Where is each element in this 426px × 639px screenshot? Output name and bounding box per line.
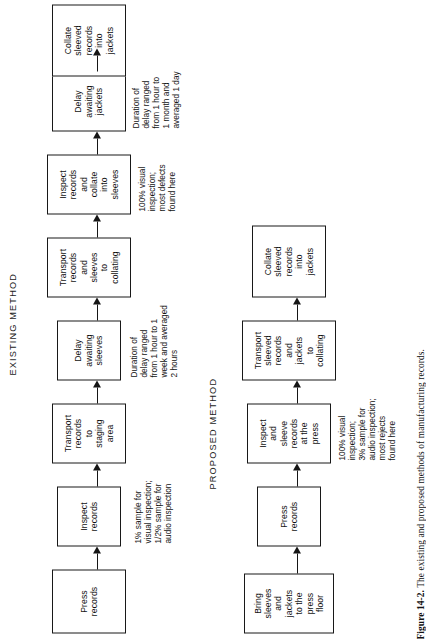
node-line: collate xyxy=(89,171,99,197)
connector-arrow xyxy=(97,553,98,569)
node-line: Collate xyxy=(263,247,273,274)
node-line: into xyxy=(294,254,304,268)
note-inspection: 100% visual inspection; most defects fou… xyxy=(138,164,178,211)
figure-number: Figure 14-2. xyxy=(416,590,426,639)
node-transport-to-collating: Transport sleeved records and jackets to… xyxy=(242,320,336,380)
node-line: and xyxy=(268,426,278,441)
figure-caption: Figure 14-2. The existing and proposed m… xyxy=(416,0,426,639)
node-line: into xyxy=(94,33,104,47)
note-inspection: 100% visual inspection; 3% sample for au… xyxy=(338,398,397,460)
node-line: to xyxy=(305,346,315,353)
node-line: jackets xyxy=(284,589,294,616)
node-line: Inspect xyxy=(258,419,268,447)
node-line: staging xyxy=(94,419,104,447)
connector-arrow xyxy=(97,387,98,403)
arrowhead-icon xyxy=(293,463,301,470)
node-press-records: Press records xyxy=(257,486,321,546)
proposed-method-track: Bring sleeves and jackets to the press f… xyxy=(222,0,372,639)
node-line: to xyxy=(84,429,94,436)
node-line: into xyxy=(99,177,109,191)
node-line: jackets xyxy=(105,26,115,53)
node-line: Bring xyxy=(253,593,263,614)
connector-arrow xyxy=(297,304,298,320)
node-line: jackets xyxy=(305,247,315,274)
node-line: sleeve xyxy=(279,420,289,445)
existing-method-track: Press records Inspect records Transport … xyxy=(22,0,172,639)
node-line: and xyxy=(79,177,89,192)
note-delay-jackets: Duration of delay ranged from 1 hour to … xyxy=(132,71,182,128)
node-line: to xyxy=(99,263,109,270)
node-line: sleeves xyxy=(89,252,99,282)
node-line: press xyxy=(305,592,315,614)
node-line: awaiting xyxy=(84,85,94,117)
node-collate-into-jackets: Collate sleeved records into jackets xyxy=(52,4,126,76)
node-inspect-records: Inspect records xyxy=(57,486,121,546)
note-sampling: 1% sample for visual inspection; 1/2% sa… xyxy=(134,480,174,543)
node-line: records xyxy=(289,501,299,530)
proposed-method-row: PROPOSED METHOD Bring sleeves and jacket… xyxy=(206,0,376,639)
node-transport-to-staging: Transport records to staging area xyxy=(52,403,126,463)
arrowhead-icon xyxy=(293,380,301,387)
node-line: Inspect xyxy=(58,170,68,198)
note-line: found here xyxy=(388,398,398,460)
node-line: Collate xyxy=(63,26,73,53)
connector-arrow xyxy=(297,553,298,573)
node-inspect-and-sleeve: Inspect and sleeve records at the press xyxy=(247,403,331,463)
arrowhead-icon xyxy=(93,48,101,55)
note-line: audio inspection xyxy=(164,480,174,543)
connector-arrow xyxy=(297,387,298,403)
node-line: Transport xyxy=(253,331,263,368)
node-line: Press xyxy=(279,505,289,527)
proposed-method-label: PROPOSED METHOD xyxy=(208,377,218,489)
node-line: records xyxy=(89,501,99,530)
node-line: Press xyxy=(79,590,89,612)
node-line: to the xyxy=(294,592,304,614)
existing-method-label: EXISTING METHOD xyxy=(8,273,18,376)
node-line: records xyxy=(284,246,294,275)
node-line: Inspect xyxy=(79,502,89,530)
arrowhead-icon xyxy=(93,297,101,304)
node-line: jackets xyxy=(94,87,104,114)
node-press-records: Press records xyxy=(52,569,126,633)
node-line: area xyxy=(105,424,115,442)
node-line: sleeved xyxy=(273,246,283,276)
arrowhead-icon xyxy=(93,380,101,387)
note-line: averaged 1 day xyxy=(172,71,182,128)
node-line: jackets xyxy=(294,336,304,363)
arrowhead-icon xyxy=(293,546,301,553)
node-line: records xyxy=(73,418,83,447)
note-line: 2 hours xyxy=(170,305,180,377)
node-line: press xyxy=(310,422,320,444)
node-line: awaiting xyxy=(84,334,94,366)
node-line: Transport xyxy=(63,414,73,451)
arrowhead-icon xyxy=(293,297,301,304)
arrowhead-icon xyxy=(93,546,101,553)
node-line: and xyxy=(284,343,294,358)
node-line: records xyxy=(289,418,299,447)
node-line: Delay xyxy=(73,90,83,112)
figure-caption-text: The existing and proposed methods of man… xyxy=(416,349,426,588)
note-delay-sleeves: Duration of delay ranged from 1 hour to … xyxy=(130,305,180,377)
node-line: and xyxy=(79,260,89,275)
node-line: Delay xyxy=(73,339,83,361)
node-line: records xyxy=(273,335,283,364)
connector-arrow xyxy=(297,470,298,486)
connector-arrow xyxy=(97,470,98,486)
node-line: sleeves xyxy=(110,169,120,199)
node-collate-into-jackets: Collate sleeved records into jackets xyxy=(252,225,326,297)
arrowhead-icon xyxy=(93,131,101,138)
node-line: collating xyxy=(315,334,325,366)
node-inspect-and-collate: Inspect records and collate into sleeves xyxy=(47,154,131,214)
note-line: found here xyxy=(168,164,178,211)
node-line: and xyxy=(273,596,283,611)
node-bring-sleeves-jackets: Bring sleeves and jackets to the press f… xyxy=(244,573,334,633)
node-line: records xyxy=(89,586,99,615)
node-transport-to-collating: Transport records and sleeves to collati… xyxy=(47,237,131,297)
node-line: sleeves xyxy=(263,588,273,618)
node-line: records xyxy=(68,252,78,281)
node-line: floor xyxy=(315,594,325,611)
node-line: collating xyxy=(110,251,120,283)
connector-arrow xyxy=(97,304,98,320)
node-line: Transport xyxy=(58,248,68,285)
